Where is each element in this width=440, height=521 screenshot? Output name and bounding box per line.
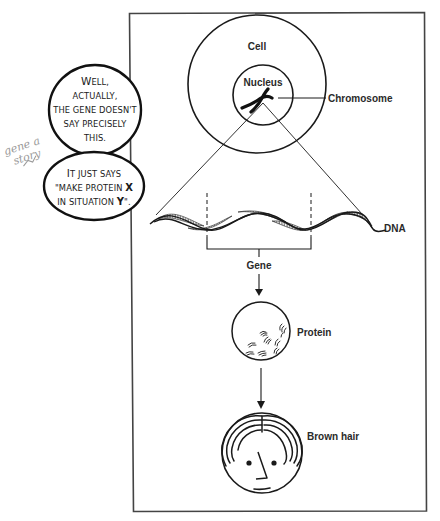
face-brown-hair: Brown hair [222,413,360,493]
protein-molecules-icon [246,324,286,356]
gene-bracket: Gene [207,193,311,271]
chromosome-label: Chromosome [328,93,393,104]
protein-diagram: Protein [232,302,331,360]
cell-label: Cell [248,41,267,52]
bubble-1-line-5: THIS. [83,133,106,143]
bubble-1-line-2: ACTUALLY, [73,91,118,101]
bubble-2-line-2: "MAKE PROTEIN X [55,182,133,193]
arrow-protein-to-trait [257,368,265,409]
bubble-2-line-3: IN SITUATION Y". [57,196,130,207]
bubble-1-line-3: THE GENE DOESN'T [52,105,137,115]
gene-label: Gene [246,260,271,271]
speech-bubble-2: IT JUST SAYS "MAKE PROTEIN X IN SITUATIO… [44,152,144,220]
zoom-line-left [156,103,263,215]
arrow-gene-to-protein [255,274,263,296]
protein-label: Protein [297,327,331,338]
right-eye-icon [271,460,276,465]
dna-helix: DNA [150,211,406,234]
trait-label: Brown hair [307,431,359,442]
bubble-2-line-1: IT JUST SAYS [67,167,121,179]
left-eye-icon [246,460,251,465]
handwritten-note: gene a story [2,134,45,170]
dna-label: DNA [384,223,406,234]
bubble-1-line-4: SAY PRECISELY [64,119,128,129]
speech-bubble-1: WELL, ACTUALLY, THE GENE DOESN'T SAY PRE… [49,65,141,155]
bubble-1-line-1: WELL, [81,75,109,87]
zoom-line-right [263,103,362,214]
cell-diagram: Cell Nucleus Chromosome [156,15,393,215]
gene-diagram: Cell Nucleus Chromosome [0,0,440,521]
nucleus-label: Nucleus [244,77,283,88]
